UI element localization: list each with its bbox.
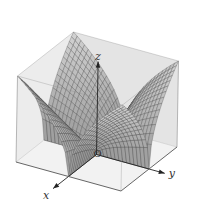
x-axis-arrow-icon (53, 183, 59, 189)
y-axis-arrow-icon (158, 170, 164, 174)
surface-plot: z y x O (0, 0, 201, 215)
y-axis-label: y (168, 167, 176, 180)
x-axis-label: x (43, 189, 50, 202)
z-axis-label: z (94, 50, 101, 63)
origin-label: O (94, 148, 102, 159)
